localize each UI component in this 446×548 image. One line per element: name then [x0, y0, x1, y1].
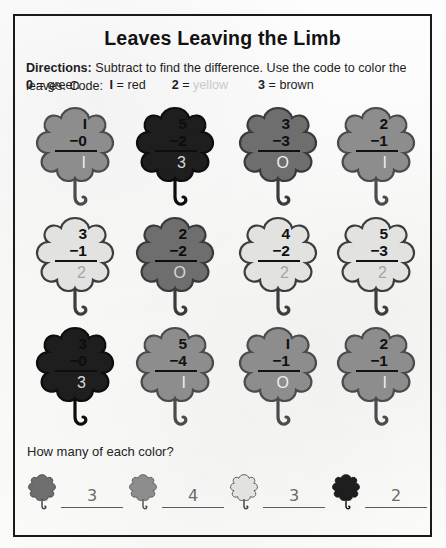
code-item-brown: 3 = brown	[258, 77, 314, 95]
worksheet-frame: Leaves Leaving the Limb Directions: Subt…	[13, 14, 432, 537]
mini-leaf-shape	[227, 472, 261, 512]
answer-underline	[162, 507, 224, 508]
mini-leaf-shape	[329, 472, 363, 512]
leaf-icon	[27, 322, 123, 432]
leaf-shape	[127, 212, 223, 322]
code-number-3: 3	[258, 78, 265, 92]
code-number-2: 2	[172, 78, 179, 92]
tally-answer-value: 3	[263, 486, 325, 505]
leaf-icon	[329, 472, 363, 512]
leaf-icon	[230, 102, 326, 212]
leaf-shape	[328, 322, 424, 432]
leaf-icon	[27, 102, 123, 212]
leaf-shape	[328, 102, 424, 212]
code-item-red: I = red	[110, 77, 146, 95]
leaf-shape	[127, 322, 223, 432]
leaf-icon	[127, 322, 223, 432]
leaf-shape	[230, 212, 326, 322]
color-code-legend: 0 = greenI = red2 = yellow3 = brown	[26, 77, 419, 95]
tally-item-brown[interactable]: 2	[329, 468, 429, 530]
leaf-problem-cell[interactable]: 5 −2 3	[127, 102, 223, 212]
leaf-problem-cell[interactable]: 2 −2 O	[127, 212, 223, 322]
leaf-shape	[27, 102, 123, 212]
tally-answer-blank[interactable]: 2	[365, 476, 427, 510]
code-word-brown: brown	[279, 78, 313, 92]
tally-row: 3 4	[15, 468, 430, 530]
code-word-green: green	[47, 78, 79, 92]
leaf-icon	[127, 212, 223, 322]
leaf-problem-cell[interactable]: 3 −0 3	[27, 322, 123, 432]
leaf-icon	[127, 102, 223, 212]
code-word-red: red	[127, 78, 145, 92]
mini-leaf-shape	[25, 472, 59, 512]
leaf-problem-cell[interactable]: 4 −2 2	[230, 212, 326, 322]
leaf-problem-cell[interactable]: 2 −1 I	[328, 102, 424, 212]
leaf-problem-cell[interactable]: 3 −1 2	[27, 212, 123, 322]
leaf-icon	[328, 102, 424, 212]
leaf-problem-cell[interactable]: I −0 I	[27, 102, 123, 212]
leaf-shape	[27, 322, 123, 432]
leaf-row: 3 −0 3 5 −4	[15, 322, 430, 432]
answer-underline	[61, 507, 123, 508]
tally-question: How many of each color?	[27, 444, 174, 459]
worksheet-page: Leaves Leaving the Limb Directions: Subt…	[0, 0, 446, 548]
tally-answer-blank[interactable]: 3	[61, 476, 123, 510]
directions-label: Directions:	[26, 61, 92, 75]
code-item-green: 0 = green	[26, 77, 80, 95]
tally-answer-blank[interactable]: 3	[263, 476, 325, 510]
leaf-shape	[230, 322, 326, 432]
code-word-yellow: yellow	[193, 78, 228, 92]
code-number-1: I	[110, 78, 114, 92]
code-eq-3: =	[269, 78, 276, 92]
code-number-0: 0	[26, 78, 33, 92]
leaf-icon	[227, 472, 261, 512]
leaf-icon	[328, 212, 424, 322]
leaf-icon	[126, 472, 160, 512]
tally-item-green[interactable]: 3	[25, 468, 125, 530]
leaf-shape	[27, 212, 123, 322]
code-eq-2: =	[182, 78, 189, 92]
leaf-problem-cell[interactable]: I −1 O	[230, 322, 326, 432]
leaf-problem-cell[interactable]: 5 −3 2	[328, 212, 424, 322]
tally-answer-value: 2	[365, 486, 427, 505]
mini-leaf-shape	[126, 472, 160, 512]
leaf-icon	[328, 322, 424, 432]
leaf-shape	[328, 212, 424, 322]
leaf-problem-cell[interactable]: 3 −3 O	[230, 102, 326, 212]
leaf-icon	[25, 472, 59, 512]
tally-answer-blank[interactable]: 4	[162, 476, 224, 510]
answer-underline	[263, 507, 325, 508]
leaf-problem-cell[interactable]: 2 −1 I	[328, 322, 424, 432]
leaf-icon	[27, 212, 123, 322]
leaf-shape	[127, 102, 223, 212]
leaf-problem-grid: I −0 I 5 −2	[15, 102, 430, 432]
tally-item-yellow[interactable]: 3	[227, 468, 327, 530]
code-item-yellow: 2 = yellow	[172, 77, 228, 95]
leaf-problem-cell[interactable]: 5 −4 I	[127, 322, 223, 432]
code-eq-0: =	[37, 78, 44, 92]
leaf-icon	[230, 322, 326, 432]
page-title: Leaves Leaving the Limb	[15, 27, 430, 50]
leaf-icon	[230, 212, 326, 322]
tally-answer-value: 4	[162, 486, 224, 505]
code-eq-1: =	[117, 78, 124, 92]
leaf-row: 3 −1 2 2 −2	[15, 212, 430, 322]
leaf-row: I −0 I 5 −2	[15, 102, 430, 212]
answer-underline	[365, 507, 427, 508]
leaf-shape	[230, 102, 326, 212]
tally-answer-value: 3	[61, 486, 123, 505]
tally-item-red[interactable]: 4	[126, 468, 226, 530]
